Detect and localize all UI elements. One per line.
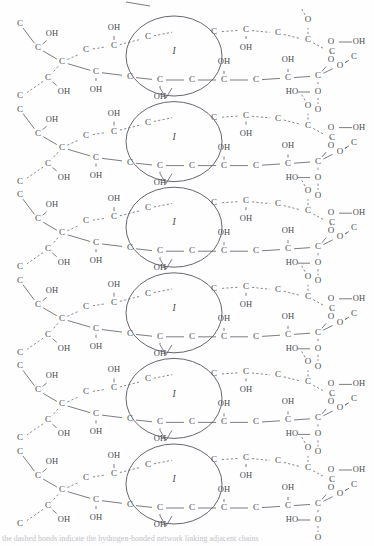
svg-text:OH: OH [218,484,230,494]
svg-text:C: C [93,152,99,162]
svg-text:O: O [328,293,335,303]
svg-text:O: O [328,396,335,406]
svg-text:C: C [253,416,259,426]
svg-text:HO: HO [286,428,298,438]
svg-text:C: C [275,284,281,294]
svg-text:C: C [189,74,195,84]
svg-text:OH: OH [46,114,58,124]
svg-text:C: C [83,472,89,482]
svg-text:C: C [17,360,23,370]
svg-text:C: C [351,393,357,403]
svg-text:OH: OH [90,170,102,180]
svg-text:C: C [275,369,281,379]
svg-text:C: C [93,237,99,247]
svg-text:C: C [221,416,227,426]
svg-text:HO: HO [286,257,298,267]
svg-text:OH: OH [282,225,294,235]
svg-text:C: C [253,245,259,255]
svg-text:O: O [328,54,335,64]
svg-text:C: C [189,160,195,170]
svg-text:C: C [243,366,249,376]
svg-text:I: I [171,389,176,399]
svg-text:OH: OH [58,428,70,438]
svg-text:C: C [17,275,23,285]
svg-text:C: C [59,56,65,66]
svg-text:C: C [221,502,227,512]
svg-text:OH: OH [90,426,102,436]
svg-text:C: C [211,368,217,378]
svg-text:I: I [171,217,176,227]
svg-text:C: C [35,299,41,309]
svg-text:OH: OH [108,22,120,32]
svg-text:C: C [59,398,65,408]
svg-text:C: C [211,26,217,36]
svg-text:OH: OH [240,384,252,394]
svg-text:C: C [17,90,23,100]
svg-text:C: C [305,376,311,386]
svg-text:C: C [285,72,291,82]
svg-text:C: C [83,301,89,311]
svg-text:O: O [305,442,312,452]
svg-text:C: C [17,347,23,357]
svg-text:OH: OH [58,172,70,182]
svg-text:I: I [171,303,176,313]
svg-text:C: C [315,498,321,508]
svg-text:I: I [171,132,176,142]
svg-text:C: C [35,128,41,138]
svg-text:O: O [315,190,322,200]
svg-text:O: O [337,231,344,241]
svg-text:O: O [315,343,322,353]
svg-text:C: C [275,198,281,208]
svg-text:C: C [351,51,357,61]
svg-text:OH: OH [108,108,120,118]
svg-text:O: O [315,428,322,438]
svg-text:O: O [305,185,312,195]
svg-text:C: C [35,384,41,394]
svg-text:OH: OH [46,456,58,466]
svg-text:C: C [17,18,23,28]
svg-text:OH: OH [240,42,252,52]
svg-text:C: C [93,494,99,504]
svg-text:C: C [145,117,151,127]
svg-text:C: C [211,197,217,207]
svg-text:OH: OH [353,464,365,474]
svg-text:C: C [145,288,151,298]
svg-text:O: O [305,356,312,366]
svg-text:OH: OH [218,398,230,408]
svg-text:OH: OH [90,341,102,351]
svg-text:C: C [83,215,89,225]
svg-text:OH: OH [353,378,365,388]
svg-text:O: O [328,464,335,474]
svg-text:O: O [337,60,344,70]
svg-text:C: C [111,297,117,307]
svg-text:O: O [305,100,312,110]
svg-text:C: C [145,202,151,212]
svg-text:O: O [328,225,335,235]
svg-text:O: O [328,140,335,150]
svg-text:O: O [315,86,322,96]
svg-text:O: O [315,361,322,371]
svg-text:C: C [45,158,51,168]
svg-text:OH: OH [218,313,230,323]
svg-text:C: C [275,455,281,465]
svg-text:C: C [111,211,117,221]
svg-text:C: C [285,500,291,510]
svg-text:C: C [17,518,23,528]
svg-text:OH: OH [58,514,70,524]
svg-text:OH: OH [108,279,120,289]
svg-text:C: C [275,113,281,123]
svg-text:OH: OH [240,213,252,223]
svg-text:OH: OH [90,84,102,94]
svg-text:I: I [171,46,176,56]
svg-text:C: C [111,468,117,478]
svg-text:C: C [189,416,195,426]
svg-text:OH: OH [240,470,252,480]
svg-text:C: C [35,213,41,223]
figure-caption: the dashed bonds indicate the hydrogen-b… [0,534,374,546]
svg-text:O: O [315,104,322,114]
svg-text:C: C [285,414,291,424]
svg-text:C: C [315,327,321,337]
svg-text:C: C [253,502,259,512]
svg-text:C: C [35,470,41,480]
svg-text:C: C [83,386,89,396]
